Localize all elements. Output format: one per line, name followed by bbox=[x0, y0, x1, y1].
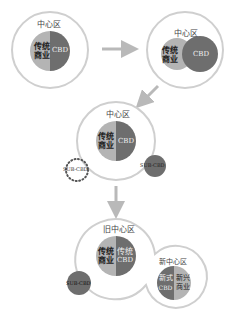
stage4-new-commerce-line1: 新兴 bbox=[175, 274, 190, 283]
stage4-new-commerce-label: 新兴 商业 bbox=[175, 274, 190, 292]
stage2-cbd-label: CBD bbox=[193, 50, 209, 58]
stage2-traditional-line2: 商业 bbox=[162, 55, 178, 64]
stage3-planned-sub-cbd-label: SUB-CBD bbox=[63, 166, 88, 172]
diagram-labels: 中心区 传统 商业 CBD 中心区 传统 商业 CBD 中心区 传统 商业 CB… bbox=[0, 0, 231, 315]
stage4-new-cbd-line2: CBD bbox=[158, 283, 173, 292]
stage3-zone-label: 中心区 bbox=[106, 108, 130, 119]
stage4-new-cbd-label: 新式 CBD bbox=[158, 274, 173, 292]
stage4-new-zone-label: 新中心区 bbox=[159, 256, 187, 266]
stage4-traditional-label: 传统 商业 bbox=[98, 247, 114, 265]
stage1-traditional-label: 传统 商业 bbox=[34, 42, 50, 60]
stage4-new-cbd-line1: 新式 bbox=[158, 274, 173, 283]
stage4-traditional-cbd-line2: CBD bbox=[117, 256, 133, 265]
stage4-traditional-line2: 商业 bbox=[98, 256, 114, 265]
stage1-zone-label: 中心区 bbox=[37, 18, 61, 29]
stage4-traditional-cbd-label: 传统 CBD bbox=[117, 247, 133, 265]
stage3-traditional-line2: 商业 bbox=[98, 141, 114, 150]
stage4-traditional-cbd-line1: 传统 bbox=[117, 247, 133, 256]
stage2-traditional-label: 传统 商业 bbox=[162, 46, 178, 64]
stage1-cbd-label: CBD bbox=[52, 46, 68, 54]
stage4-old-zone-label: 旧中心区 bbox=[103, 223, 135, 234]
stage3-cbd-label: CBD bbox=[118, 137, 134, 145]
stage3-traditional-label: 传统 商业 bbox=[98, 132, 114, 150]
stage2-zone-label: 中心区 bbox=[174, 27, 198, 38]
stage1-traditional-line2: 商业 bbox=[34, 51, 50, 60]
stage4-new-commerce-line2: 商业 bbox=[175, 283, 190, 292]
stage3-sub-cbd-label: SUB-CBD bbox=[140, 162, 165, 168]
stage4-sub-cbd-label: SUB-CBD bbox=[66, 280, 91, 286]
